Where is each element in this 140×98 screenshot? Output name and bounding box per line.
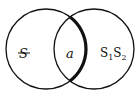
left-region-label: S: [18, 46, 30, 61]
svg-text:S1S2: S1S2: [100, 46, 127, 62]
intersection-label: a: [66, 46, 74, 61]
venn-diagram: S a S1S2: [0, 0, 140, 98]
right-region-label: S1S2: [100, 46, 127, 62]
